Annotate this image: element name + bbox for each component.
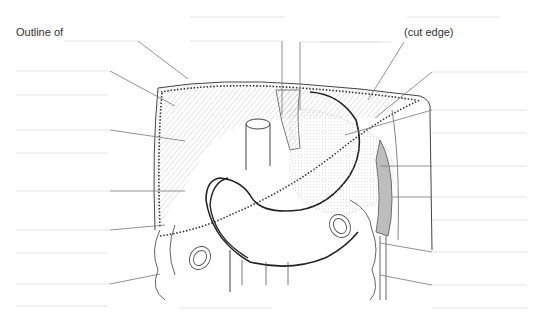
blank-lines	[16, 17, 527, 308]
anatomy-diagram	[0, 0, 537, 322]
aorta-tube	[246, 119, 270, 170]
colon	[154, 200, 386, 300]
